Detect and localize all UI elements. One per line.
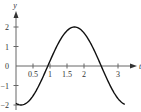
x-tick-label: 0.5 <box>28 70 38 79</box>
y-tick-label: 2 <box>5 23 9 32</box>
y-tick-label: 1 <box>5 43 9 52</box>
y-tick-label: −1 <box>0 82 9 91</box>
x-tick-label: 1 <box>48 70 52 79</box>
y-tick-label: 0 <box>5 62 9 71</box>
x-tick-label: 2 <box>82 70 86 79</box>
y-axis-arrow-icon <box>14 11 19 18</box>
y-axis-label: y <box>12 1 17 10</box>
chart: y t 0.511.523 −2−1012 <box>0 0 141 112</box>
y-tick-label: −2 <box>0 101 9 110</box>
x-axis-label: t <box>139 62 141 71</box>
x-axis-arrow-icon <box>130 64 137 69</box>
x-tick-label: 1.5 <box>62 70 72 79</box>
y-axis: y <box>12 1 18 110</box>
x-tick-label: 3 <box>116 70 120 79</box>
